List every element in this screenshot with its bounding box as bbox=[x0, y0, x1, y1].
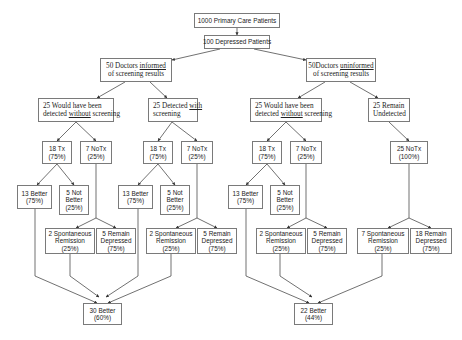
edge-arrow bbox=[409, 218, 431, 228]
node-inf: 50 Doctors informedof screening results bbox=[100, 58, 172, 82]
node-label-line: (75%) bbox=[237, 197, 254, 204]
edge-arrow bbox=[150, 82, 167, 98]
node-label-line: (25%) bbox=[276, 204, 293, 211]
edge-arrow bbox=[298, 82, 325, 98]
edge-arrow bbox=[57, 164, 74, 185]
node-label-line: Depressed bbox=[312, 237, 343, 244]
node-label-line: (25%) bbox=[374, 245, 391, 252]
edge-arrow bbox=[172, 122, 197, 141]
edge-arrow bbox=[246, 164, 267, 185]
node-label-line: detected without screening bbox=[43, 110, 120, 118]
node-label-line: of screening results bbox=[313, 70, 369, 78]
node-A_rd: 5 RemainDepressed(75%) bbox=[96, 228, 136, 254]
node-label-line: 1000 Primary Care Patients bbox=[198, 17, 277, 24]
node-label-line: Better bbox=[276, 196, 293, 203]
edge-arrow bbox=[96, 218, 116, 228]
edge-arrow bbox=[254, 49, 306, 60]
node-label-line: 13 Better bbox=[22, 190, 48, 197]
node-label-line: 50Doctors uninformed bbox=[308, 62, 373, 70]
node-D_sr: 7 SpontaneousRemission(25%) bbox=[357, 228, 409, 254]
node-label-line: 7 NoTx bbox=[296, 145, 317, 152]
node-A_no: 7 NoTx(25%) bbox=[80, 141, 112, 164]
node-label-line: (25%) bbox=[272, 245, 289, 252]
node-A_nb: 5 NotBetter(25%) bbox=[59, 185, 89, 215]
node-C_rd: 5 RemainDepressed(75%) bbox=[307, 228, 347, 254]
node-label-line: 50 Doctors informed bbox=[106, 62, 166, 70]
node-label-line: Better bbox=[166, 196, 183, 203]
edge-arrow bbox=[388, 218, 409, 228]
node-label-line: 2 Spontaneous bbox=[260, 230, 303, 237]
node-B_nb: 5 NotBetter(25%) bbox=[160, 185, 190, 215]
node-label-line: (25%) bbox=[87, 153, 104, 160]
node-label-line: (100%) bbox=[399, 153, 420, 160]
node-label-line: 13 Better bbox=[123, 190, 149, 197]
node-label-line: (75%) bbox=[258, 153, 275, 160]
node-R_und: 25 RemainUndetected bbox=[368, 98, 410, 122]
edge-arrow bbox=[37, 164, 57, 185]
edge-arrow bbox=[172, 49, 220, 60]
node-label-line: 25 Would have been bbox=[43, 102, 102, 110]
node-label-line: 7 NoTx bbox=[187, 145, 208, 152]
edge-arrow bbox=[76, 122, 96, 141]
node-label-line: 5 Not bbox=[277, 189, 292, 196]
node-R_would: 25 Would have beendetected without scree… bbox=[250, 98, 322, 122]
node-label-line: Depressed bbox=[416, 237, 447, 244]
node-B_no: 7 NoTx(25%) bbox=[181, 141, 213, 164]
flowchart-diagram: 1000 Primary Care Patients100 Depressed … bbox=[0, 0, 462, 340]
edge-arrow bbox=[108, 254, 171, 303]
node-label-line: (25%) bbox=[188, 153, 205, 160]
node-B_rd: 5 RemainDepressed(75%) bbox=[197, 228, 237, 254]
node-label-line: 25 Detected with bbox=[153, 102, 202, 110]
node-label-line: screening bbox=[153, 110, 181, 118]
node-label-line: 25 Would have been bbox=[255, 102, 314, 110]
connector-lines bbox=[0, 0, 462, 340]
node-label-line: 2 Spontaneous bbox=[49, 230, 92, 237]
node-label-line: 5 Remain bbox=[313, 230, 340, 237]
edge-arrow bbox=[57, 122, 76, 141]
edge-arrow bbox=[286, 122, 306, 141]
edge-arrow bbox=[138, 164, 158, 185]
node-C_tx: 18 Tx(75%) bbox=[252, 141, 282, 164]
node-label-line: 18 Remain bbox=[416, 230, 447, 237]
node-label-line: of screening results bbox=[108, 70, 164, 78]
node-label-line: 25 NoTx bbox=[397, 145, 421, 152]
node-label-line: (75%) bbox=[107, 245, 124, 252]
node-B_b: 13 Better(75%) bbox=[118, 185, 153, 209]
node-label-line: (75%) bbox=[422, 245, 439, 252]
node-label-line: 18 Tx bbox=[259, 145, 275, 152]
node-label-line: (25%) bbox=[297, 153, 314, 160]
node-label-line: (75%) bbox=[127, 197, 144, 204]
node-A_b: 13 Better(75%) bbox=[17, 185, 52, 209]
node-A_tx: 18 Tx(75%) bbox=[42, 141, 72, 164]
edge-arrow bbox=[287, 218, 306, 228]
node-label-line: Remission bbox=[266, 237, 296, 244]
node-label-line: (25%) bbox=[166, 204, 183, 211]
edge-arrow bbox=[267, 164, 285, 185]
edge-arrow bbox=[176, 218, 197, 228]
node-label-line: 18 Tx bbox=[49, 145, 65, 152]
node-uninf: 50Doctors uninformedof screening results bbox=[306, 58, 376, 82]
node-label-line: Remission bbox=[156, 237, 186, 244]
node-label-line: Better bbox=[65, 196, 82, 203]
node-L_total: 30 Better(60%) bbox=[83, 303, 122, 325]
node-C_sr: 2 SpontaneousRemission(25%) bbox=[256, 228, 306, 254]
node-C_no: 7 NoTx(25%) bbox=[290, 141, 322, 164]
node-A_sr: 2 SpontaneousRemission(25%) bbox=[45, 228, 95, 254]
node-R_total: 22 Better(44%) bbox=[294, 303, 333, 325]
edge-arrow bbox=[158, 164, 175, 185]
node-label-line: 5 Remain bbox=[203, 230, 230, 237]
edge-arrow bbox=[70, 254, 99, 297]
edge-arrow bbox=[158, 122, 172, 141]
node-label-line: (25%) bbox=[162, 245, 179, 252]
edge-arrow bbox=[389, 122, 409, 141]
node-label-line: detected without screening bbox=[255, 110, 332, 118]
node-B_tx: 18 Tx(75%) bbox=[143, 141, 173, 164]
node-label-line: (75%) bbox=[149, 153, 166, 160]
node-label-line: 18 Tx bbox=[150, 145, 166, 152]
node-label-line: 5 Remain bbox=[102, 230, 129, 237]
node-D_rd: 18 RemainDepressed(75%) bbox=[410, 228, 452, 254]
node-label-line: 25 Remain bbox=[373, 102, 404, 110]
edge-arrow bbox=[197, 218, 217, 228]
edge-arrow bbox=[280, 254, 312, 297]
edge-arrow bbox=[267, 122, 286, 141]
